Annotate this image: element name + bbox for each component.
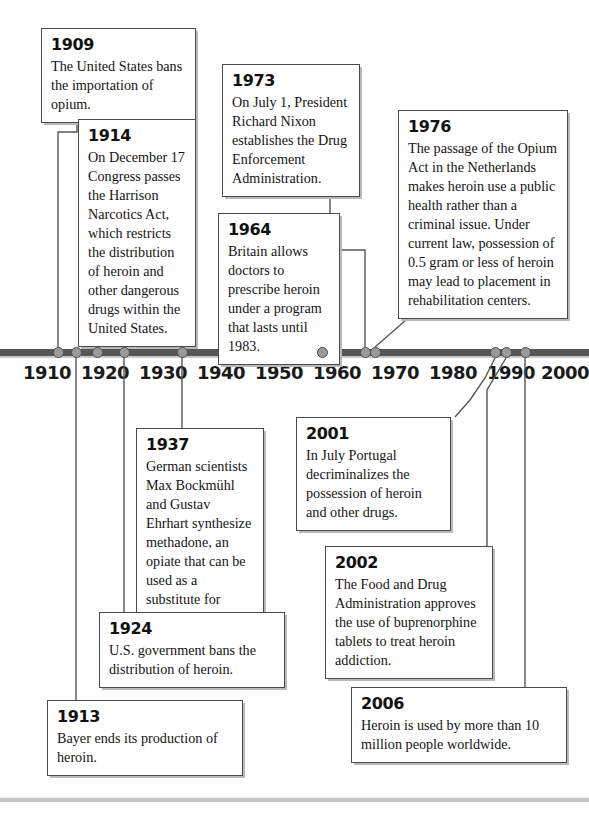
event-box-1924[interactable]: 1924 U.S. government bans the distributi… [99,612,285,688]
event-year-2001: 2001 [306,425,441,443]
event-text-2002: The Food and Drug Admin­istration approv… [335,575,483,670]
year-tick-1930: 1930 [139,362,187,383]
event-text-1964: Britain allows doc­tors to prescribe her… [228,242,330,356]
event-year-1909: 1909 [51,36,186,54]
year-tick-2000: 2000 [541,362,589,383]
event-year-1937: 1937 [146,436,254,454]
event-year-1913: 1913 [57,708,233,726]
event-text-1937: German scientists Max Bockmühl and Gusta… [146,457,254,628]
axis-marker-1973[interactable] [360,347,371,358]
year-tick-1910: 1910 [23,362,71,383]
event-year-2002: 2002 [335,554,483,572]
connector-2002 [487,358,506,546]
event-box-1964[interactable]: 1964 Britain allows doc­tors to prescrib… [218,213,340,365]
event-year-1924: 1924 [109,620,275,638]
axis-marker-2001[interactable] [490,347,501,358]
year-tick-1950: 1950 [255,362,303,383]
event-text-1973: On July 1, President Richard Nixon estab… [232,93,350,188]
axis-marker-2002[interactable] [501,347,512,358]
timeline-diagram: 1910 1920 1930 1940 1950 1960 1970 1980 … [0,0,589,815]
event-box-1913[interactable]: 1913 Bayer ends its production of heroin… [47,700,243,776]
event-year-1914: 1914 [88,127,186,145]
event-text-2001: In July Portugal decrimi­nalizes the pos… [306,446,441,522]
event-box-2006[interactable]: 2006 Heroin is used by more than 10 mill… [351,687,567,763]
axis-marker-1964[interactable] [317,347,328,358]
year-tick-1960: 1960 [313,362,361,383]
axis-marker-1924[interactable] [119,347,130,358]
axis-marker-1976[interactable] [370,347,381,358]
axis-marker-1909[interactable] [53,347,64,358]
event-text-1913: Bayer ends its production of heroin. [57,729,233,767]
event-year-1964: 1964 [228,221,330,239]
year-tick-1940: 1940 [197,362,245,383]
connector-1909 [58,118,77,347]
event-box-1937[interactable]: 1937 German scientists Max Bockmühl and … [136,428,264,637]
event-text-2006: Heroin is used by more than 10 million p… [361,716,557,754]
event-year-1973: 1973 [232,72,350,90]
event-box-1973[interactable]: 1973 On July 1, President Richard Nixon … [222,64,360,197]
axis-marker-1913[interactable] [71,347,82,358]
year-tick-1970: 1970 [371,362,419,383]
axis-marker-1937[interactable] [177,347,188,358]
event-year-2006: 2006 [361,695,557,713]
event-box-2001[interactable]: 2001 In July Portugal decrimi­nalizes th… [296,417,451,531]
event-box-1914[interactable]: 1914 On December 17 Congress passes the … [78,119,196,347]
year-tick-1990: 1990 [487,362,535,383]
event-year-1976: 1976 [408,118,558,136]
event-text-1976: The passage of the Opium Act in the Neth… [408,139,558,310]
year-tick-1920: 1920 [81,362,129,383]
axis-marker-2006[interactable] [520,347,531,358]
year-tick-1980: 1980 [429,362,477,383]
event-text-1909: The United States bans the importation o… [51,57,186,114]
page-bottom-rule [0,797,589,802]
event-text-1924: U.S. government bans the distribution of… [109,641,275,679]
event-box-2002[interactable]: 2002 The Food and Drug Admin­istration a… [325,546,493,679]
event-box-1976[interactable]: 1976 The passage of the Opium Act in the… [398,110,568,319]
axis-marker-1914[interactable] [92,347,103,358]
event-box-1909[interactable]: 1909 The United States bans the importat… [41,28,196,123]
event-text-1914: On December 17 Congress passes the Harri… [88,148,186,338]
